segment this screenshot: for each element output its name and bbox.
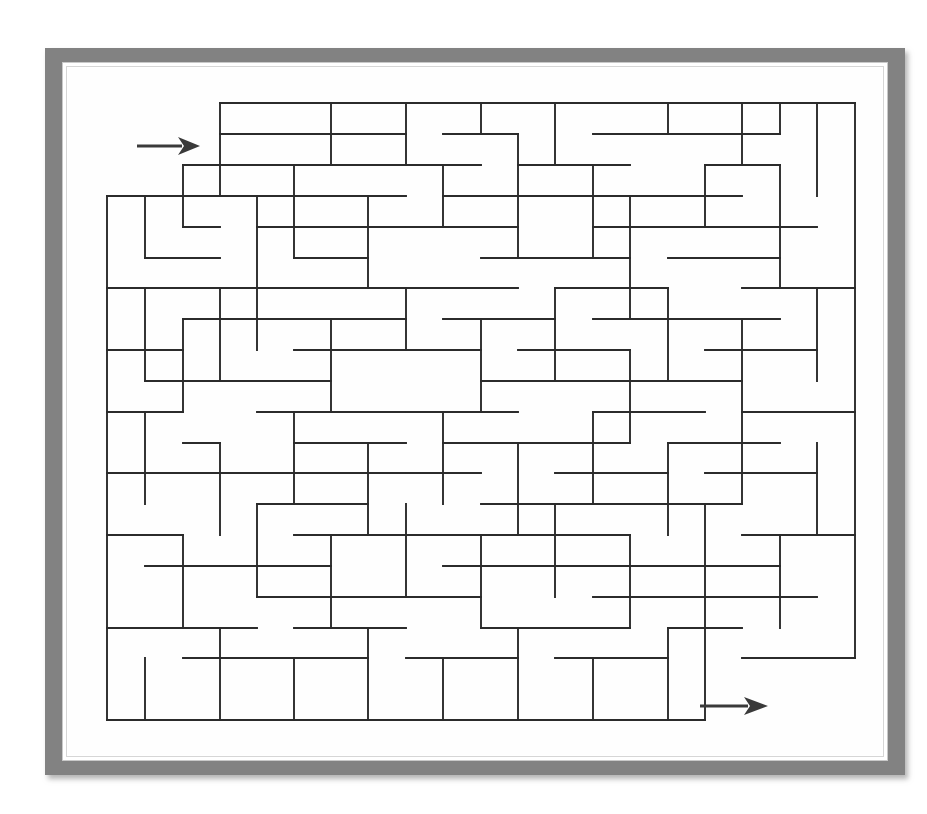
maze-paper <box>68 68 882 755</box>
maze-page: Rectangular Maze Puzzle <box>0 0 927 814</box>
